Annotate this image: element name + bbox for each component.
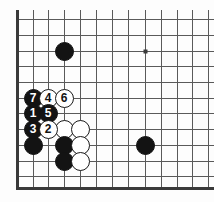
stone-black-corner-approach[interactable]	[55, 42, 74, 61]
stone-white-plain-d[interactable]	[71, 152, 90, 171]
star-point-upper-right	[144, 50, 148, 54]
stone-move-number: 2	[40, 121, 57, 138]
go-board-diagram: 7461532	[0, 0, 214, 202]
stone-move-number: 6	[56, 90, 73, 107]
stone-move-number: 5	[40, 105, 57, 122]
goban[interactable]: 7461532	[0, 0, 214, 202]
stone-black-right-side[interactable]	[136, 136, 155, 155]
stone-move-2[interactable]: 2	[39, 120, 58, 139]
stone-move-6[interactable]: 6	[55, 89, 74, 108]
